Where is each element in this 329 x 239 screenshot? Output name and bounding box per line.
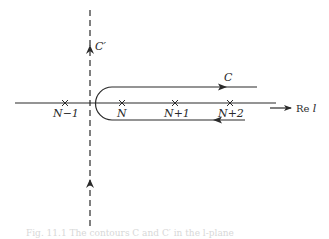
contour-diagram: Re l C′ C N−1 N N+1 N+2 Fig. 11.1 The co… [0, 0, 329, 239]
c-label: C [224, 71, 233, 84]
re-l-label: Re l [296, 102, 317, 115]
svg-text:N: N [116, 107, 127, 120]
c-prime-arrow-lower-icon [86, 179, 94, 188]
svg-text:N−1: N−1 [52, 107, 79, 120]
c-prime-label: C′ [95, 40, 106, 53]
svg-text:N+1: N+1 [163, 107, 190, 120]
svg-text:N+2: N+2 [217, 107, 244, 120]
figure-caption: Fig. 11.1 The contours C and C′ in the l… [26, 228, 234, 238]
